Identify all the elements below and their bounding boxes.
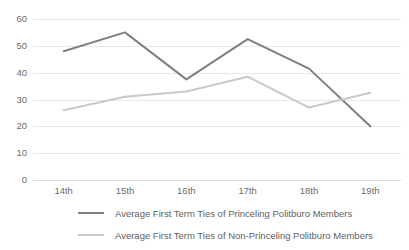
plot-lines xyxy=(33,19,401,180)
legend-item[interactable]: Average First Term Ties of Non-Princelin… xyxy=(0,224,409,246)
y-tick-label: 20 xyxy=(0,121,27,131)
y-tick-label: 0 xyxy=(0,175,27,185)
y-tick-label: 30 xyxy=(0,95,27,105)
legend-label: Average First Term Ties of Princeling Po… xyxy=(115,208,352,219)
x-tick-label: 14th xyxy=(44,185,84,197)
series-line-0 xyxy=(64,32,371,126)
y-axis: 0102030405060 xyxy=(0,0,27,200)
x-tick-label: 17th xyxy=(228,185,268,197)
x-tick-label: 16th xyxy=(166,185,206,197)
y-tick-label: 60 xyxy=(0,14,27,24)
plot-area xyxy=(33,19,401,180)
legend-item[interactable]: Average First Term Ties of Princeling Po… xyxy=(0,202,409,224)
y-tick-label: 40 xyxy=(0,68,27,78)
x-tick-label: 15th xyxy=(105,185,145,197)
legend-line-swatch-icon xyxy=(78,212,104,214)
y-tick-label: 50 xyxy=(0,41,27,51)
legend-label: Average First Term Ties of Non-Princelin… xyxy=(115,230,373,241)
gridline-0 xyxy=(33,180,401,181)
x-axis: 14th15th16th17th18th19th xyxy=(33,185,401,199)
x-tick-label: 19th xyxy=(350,185,390,197)
chart-legend: Average First Term Ties of Princeling Po… xyxy=(0,202,409,246)
line-chart-figure: 0102030405060 14th15th16th17th18th19th A… xyxy=(0,0,409,250)
y-tick-label: 10 xyxy=(0,148,27,158)
x-tick-label: 18th xyxy=(289,185,329,197)
legend-line-swatch-icon xyxy=(78,234,104,236)
